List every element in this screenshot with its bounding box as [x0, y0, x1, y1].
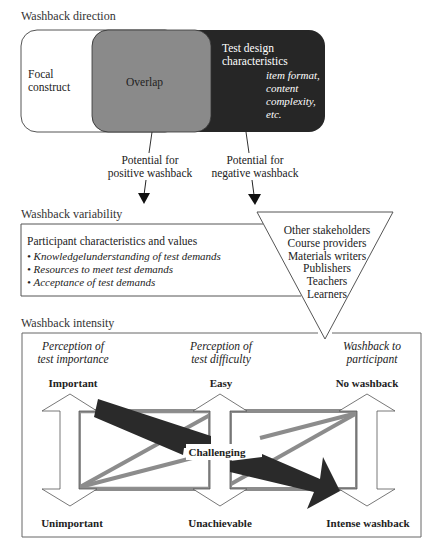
- importance-heading: Perception of test importance: [28, 340, 118, 366]
- challenging-label: Challenging: [186, 446, 248, 459]
- washback-intensity-title: Washback intensity: [21, 316, 114, 331]
- participant-list: • Knowledgelunderstanding of test demand…: [27, 250, 221, 289]
- negative-washback-label: Potential for negative washback: [203, 154, 307, 180]
- importance-double-arrow: [42, 394, 97, 506]
- important-label: Important: [28, 377, 118, 390]
- unimportant-label: Unimportant: [22, 517, 122, 530]
- participant-item: • Acceptance of test demands: [27, 276, 221, 289]
- participant-item: • Knowledgelunderstanding of test demand…: [27, 250, 221, 263]
- positive-arrow-line: [144, 180, 146, 195]
- test-design-label: Test design characteristics: [222, 42, 288, 68]
- participant-heading-col: Washback to participant: [332, 340, 412, 366]
- difficulty-heading: Perception of test difficulty: [176, 340, 266, 366]
- easy-label: Easy: [176, 377, 266, 390]
- overlap-label: Overlap: [126, 76, 163, 89]
- gray-link-left-2: [80, 457, 196, 487]
- negative-connector-line: [246, 132, 249, 153]
- negative-arrow-line: [252, 180, 254, 195]
- positive-connector-line: [149, 132, 152, 153]
- washback-variability-title: Washback variability: [21, 207, 122, 222]
- positive-arrow-head: [138, 193, 150, 204]
- washback-double-arrow: [339, 394, 395, 506]
- gray-link-right-1: [260, 413, 357, 438]
- negative-arrow-head: [248, 194, 261, 205]
- positive-washback-label: Potential for positive washback: [100, 154, 200, 180]
- stakeholders-list: Other stakeholders Course providers Mate…: [272, 224, 382, 301]
- intense-washback-label: Intense washback: [318, 517, 418, 530]
- black-path-lower: [230, 454, 340, 509]
- test-design-examples: item format, content complexity, etc.: [266, 69, 320, 121]
- focal-construct-label: Focal construct: [28, 68, 70, 94]
- no-washback-label: No washback: [322, 377, 412, 390]
- washback-direction-title: Washback direction: [21, 9, 116, 24]
- unachievable-label: Unachievable: [170, 517, 270, 530]
- participant-heading: Participant characteristics and values: [27, 235, 197, 247]
- participant-item: • Resources to meet test demands: [27, 263, 221, 276]
